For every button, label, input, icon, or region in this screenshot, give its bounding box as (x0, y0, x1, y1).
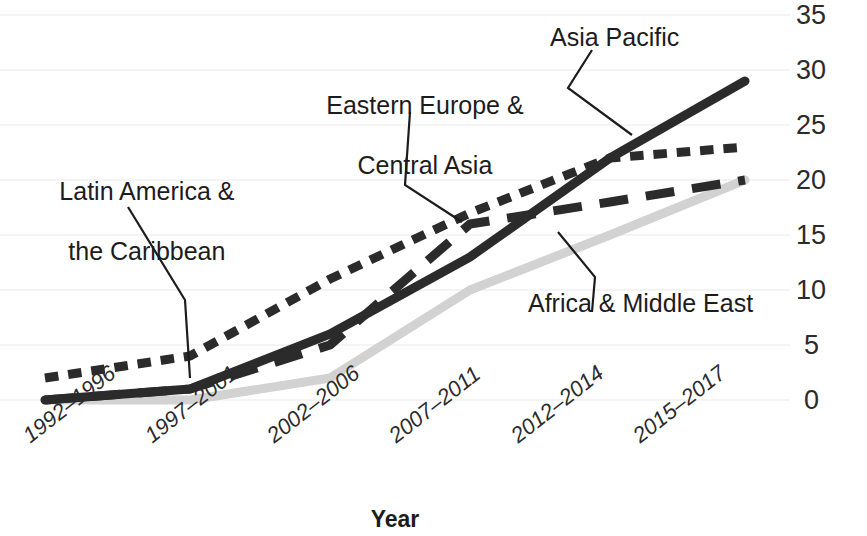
leader-line-asia-pacific (568, 50, 632, 135)
annotation-eastern-europe: Eastern Europe & Central Asia (296, 60, 526, 210)
x-axis-title: Year (0, 506, 790, 533)
annotation-eastern-europe-line2: Central Asia (358, 151, 493, 179)
y-tick-0: 0 (804, 385, 819, 416)
y-tick-20: 20 (796, 165, 826, 196)
annotation-eastern-europe-line1: Eastern Europe & (326, 91, 523, 119)
annotation-latin-america: Latin America & the Caribbean (18, 146, 248, 296)
annotation-africa-middle-east: Africa & Middle East (528, 288, 828, 318)
y-tick-30: 30 (796, 55, 826, 86)
y-tick-25: 25 (796, 110, 826, 141)
y-tick-15: 15 (796, 220, 826, 251)
annotation-latin-america-line2: the Caribbean (68, 237, 225, 265)
annotation-asia-pacific: Asia Pacific (550, 22, 810, 52)
y-tick-5: 5 (804, 330, 819, 361)
line-chart: 35 30 25 20 15 10 5 0 # of institutions … (0, 0, 867, 536)
annotation-latin-america-line1: Latin America & (59, 177, 234, 205)
